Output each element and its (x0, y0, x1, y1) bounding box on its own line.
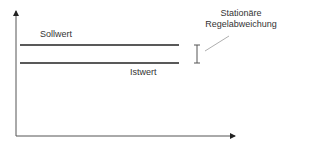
callout-line-1: Stationäre (203, 8, 279, 19)
setpoint-label: Sollwert (40, 29, 72, 39)
callout-line-2: Regelabweichung (203, 19, 279, 30)
actual-value-label: Istwert (130, 67, 157, 77)
deviation-marker (194, 45, 200, 63)
callout-leader-line (205, 36, 229, 51)
steady-state-error-callout: Stationäre Regelabweichung (203, 8, 279, 30)
